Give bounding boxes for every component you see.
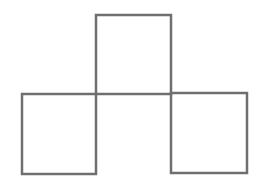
three-squares-diagram <box>0 0 268 181</box>
right-square <box>171 93 247 173</box>
top-square <box>96 15 171 94</box>
left-square <box>22 94 96 174</box>
squares-group <box>22 15 247 174</box>
